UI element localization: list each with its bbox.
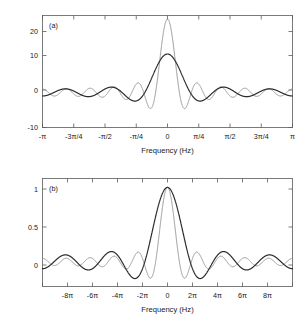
xticklabel: 3π/4: [254, 132, 269, 141]
panel-b-axes-box: [43, 179, 293, 287]
xticklabel: -π/4: [130, 132, 143, 141]
xticklabel: -8π: [62, 291, 73, 300]
xticklabel: 0: [166, 132, 170, 141]
panel-a-xticks: [43, 16, 293, 128]
panel-a-xticklabels: -π -3π/4 -π/2 -π/4 0 π/4 π/2 3π/4 π: [39, 132, 295, 141]
xticklabel: -π/2: [98, 132, 111, 141]
panel-b-xticks: [43, 179, 293, 287]
yticklabel: 10: [30, 51, 38, 60]
figure-canvas: (a) -π -3π/4 -π/2 -π/4 0 π/4 π/2 3π/4 π …: [0, 0, 305, 320]
xticklabel: 2π: [188, 291, 197, 300]
panel-b: (b) -8π -6π -4π -2π 0 2π 4π 6π 8π 0 0.5 …: [0, 160, 305, 320]
xticklabel: π: [290, 132, 295, 141]
xticklabel: -2π: [137, 291, 148, 300]
yticklabel: 20: [30, 27, 38, 36]
xticklabel: -4π: [112, 291, 123, 300]
panel-b-plot-area: (b) -8π -6π -4π -2π 0 2π 4π 6π 8π 0 0.5 …: [28, 179, 293, 315]
panel-b-yticks: [43, 189, 293, 265]
yticklabel: 0: [34, 261, 38, 270]
panel-b-xticklabels: -8π -6π -4π -2π 0 2π 4π 6π 8π: [62, 291, 272, 300]
panel-b-tag: (b): [49, 184, 58, 193]
xticklabel: 4π: [213, 291, 222, 300]
panel-a-tag: (a): [49, 21, 58, 30]
xticklabel: 6π: [238, 291, 247, 300]
panel-a-xlabel: Frequency (Hz): [141, 146, 194, 155]
xticklabel: -6π: [87, 291, 98, 300]
xticklabel: 8π: [263, 291, 272, 300]
xticklabel: π/4: [193, 132, 204, 141]
xticklabel: -π: [39, 132, 46, 141]
yticklabel: 0.5: [28, 223, 38, 232]
panel-a: (a) -π -3π/4 -π/2 -π/4 0 π/4 π/2 3π/4 π …: [0, 0, 305, 160]
yticklabel: 0: [34, 86, 38, 95]
panel-a-yticks: [43, 32, 293, 128]
panel-a-yticklabels: -10 0 10 20: [28, 27, 38, 132]
panel-a-plot-area: (a) -π -3π/4 -π/2 -π/4 0 π/4 π/2 3π/4 π …: [28, 16, 295, 156]
panel-a-series-wide: [43, 54, 293, 101]
yticklabel: 1: [34, 185, 38, 194]
panel-b-series-wide: [43, 187, 293, 278]
xticklabel: π/2: [225, 132, 236, 141]
panel-a-axes-box: [43, 16, 293, 128]
panel-b-yticklabels: 0 0.5 1: [28, 185, 38, 270]
xticklabel: -3π/4: [65, 132, 82, 141]
xticklabel: 0: [166, 291, 170, 300]
yticklabel: -10: [28, 123, 38, 132]
panel-b-xlabel: Frequency (Hz): [141, 305, 194, 314]
panel-a-series-narrow: [43, 19, 293, 109]
